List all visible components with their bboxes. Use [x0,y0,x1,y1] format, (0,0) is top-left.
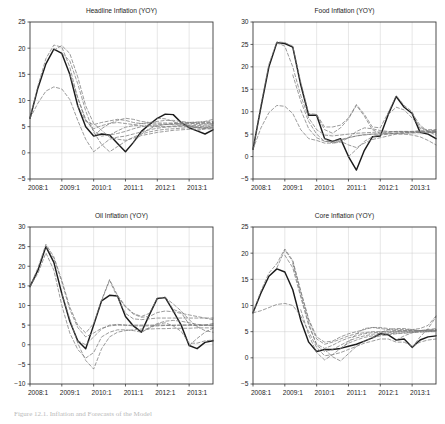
series-line-actual [30,247,213,349]
x-axis-tick-label: 2010:1 [92,184,113,191]
x-axis-tick-label: 2010:1 [92,389,113,396]
y-axis-tick-label: 10 [18,97,26,104]
y-axis-tick-label: 5 [22,123,26,130]
series-line-actual [253,43,436,170]
y-axis-tick-label: 30 [18,223,26,230]
y-axis-tick-label: 20 [241,63,249,70]
chart-panel-oil: Oil Inflation (YOY)−10−50510152025302008… [0,205,222,410]
y-axis-tick-label: −5 [18,175,26,182]
y-axis-tick-label: 10 [18,302,26,309]
y-axis-tick-label: −5 [241,175,249,182]
y-axis-tick-label: 25 [18,243,26,250]
series-line-forecast [253,249,436,342]
x-axis-tick-label: 2012:1 [155,389,176,396]
x-axis-tick-label: 2011:1 [124,389,144,396]
series-line-forecast [293,264,436,352]
series-line-forecast [141,320,213,332]
x-axis-tick-label: 2012:1 [378,389,399,396]
series-line-forecast [78,324,213,344]
y-axis-tick-label: 0 [245,354,249,361]
x-axis-tick-label: 2009:1 [283,184,304,191]
series-line-forecast [30,45,213,129]
series-line-forecast [285,255,436,348]
series-line-forecast [301,110,436,141]
chart-panel-headline: Headline Inflation (YOY)−505101520252008… [0,0,222,205]
x-axis-tick-label: 2010:1 [315,184,336,191]
x-axis-tick-label: 2011:1 [347,184,367,191]
figure-caption: Figure 12.1. Inflation and Forecasts of … [14,410,434,418]
y-axis-tick-label: 25 [18,18,26,25]
y-axis-tick-label: −5 [241,380,249,387]
x-axis-tick-label: 2008:1 [28,389,49,396]
chart-panel-food: Food Inflation (YOY)−50510152025302008:1… [223,0,445,205]
series-line-forecast [253,105,436,149]
y-axis-tick-label: −5 [18,361,26,368]
x-axis-tick-label: 2011:1 [124,184,144,191]
x-axis-tick-label: 2009:1 [60,184,81,191]
x-axis-tick-label: 2010:1 [315,389,336,396]
x-axis-tick-label: 2008:1 [251,389,272,396]
y-axis-tick-label: 0 [245,153,249,160]
y-axis-tick-label: 20 [241,250,249,257]
x-axis-tick-label: 2013:1 [410,184,431,191]
y-axis-tick-label: 5 [245,131,249,138]
y-axis-tick-label: 0 [22,341,26,348]
x-axis-tick-label: 2013:1 [410,389,431,396]
y-axis-tick-label: 10 [241,302,249,309]
y-axis-tick-label: 15 [18,71,26,78]
x-axis-tick-label: 2009:1 [60,389,81,396]
figure-container: Headline Inflation (YOY)−505101520252008… [0,0,445,424]
y-axis-tick-label: 5 [245,328,249,335]
chart-title: Oil Inflation (YOY) [95,212,148,220]
x-axis-tick-label: 2013:1 [187,184,208,191]
y-axis-tick-label: 15 [241,276,249,283]
x-axis-tick-label: 2012:1 [155,184,176,191]
series-line-forecast [118,296,213,320]
x-axis-tick-label: 2012:1 [378,184,399,191]
chart-panel-core: Core Inflation (YOY)−505101520252008:120… [223,205,445,410]
x-axis-tick-label: 2008:1 [28,184,49,191]
plot-frame [253,22,436,179]
y-axis-tick-label: 5 [22,322,26,329]
series-line-forecast [30,244,213,333]
y-axis-tick-label: 20 [18,263,26,270]
x-axis-tick-label: 2011:1 [347,389,367,396]
chart-title: Food Inflation (YOY) [314,7,374,15]
x-axis-tick-label: 2009:1 [283,389,304,396]
y-axis-tick-label: 25 [241,223,249,230]
y-axis-tick-label: 10 [241,108,249,115]
y-axis-tick-label: 30 [241,18,249,25]
y-axis-tick-label: 20 [18,45,26,52]
chart-title: Headline Inflation (YOY) [86,7,157,15]
x-axis-tick-label: 2008:1 [251,184,272,191]
y-axis-tick-label: −10 [14,380,26,387]
x-axis-tick-label: 2013:1 [187,389,208,396]
y-axis-tick-label: 0 [22,149,26,156]
y-axis-tick-label: 25 [241,41,249,48]
chart-title: Core Inflation (YOY) [315,212,374,220]
y-axis-tick-label: 15 [241,86,249,93]
y-axis-tick-label: 15 [18,282,26,289]
